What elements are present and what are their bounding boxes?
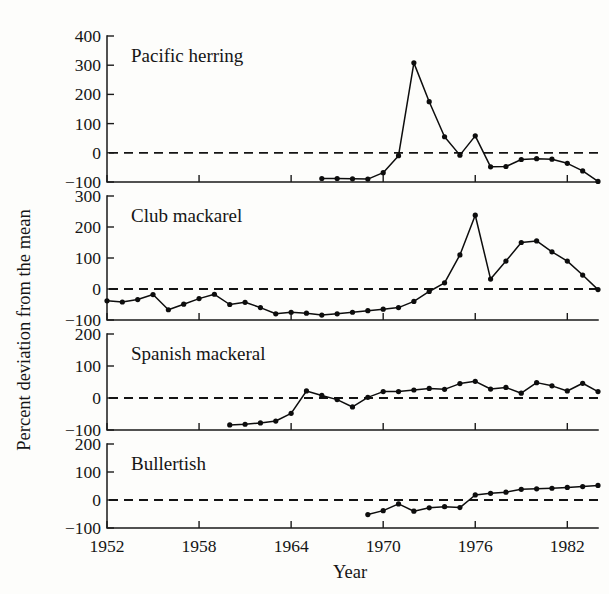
data-point xyxy=(120,299,125,304)
data-point xyxy=(488,491,493,496)
data-point xyxy=(365,395,370,400)
data-point xyxy=(473,379,478,384)
x-tick-label: 1964 xyxy=(274,536,309,556)
data-point xyxy=(365,308,370,313)
y-tick-label: 100 xyxy=(75,356,102,376)
data-point xyxy=(242,422,247,427)
data-point xyxy=(519,391,524,396)
data-point xyxy=(350,310,355,315)
panel-title: Spanish mackeral xyxy=(131,343,266,364)
data-point xyxy=(565,388,570,393)
data-point xyxy=(580,484,585,489)
data-point xyxy=(503,385,508,390)
y-tick-label: 100 xyxy=(75,248,102,268)
y-tick-label: 200 xyxy=(75,434,102,454)
data-point xyxy=(289,411,294,416)
figure-root: −1000100200300400Pacific herring−1000100… xyxy=(0,0,609,594)
data-point xyxy=(580,381,585,386)
data-point xyxy=(181,302,186,307)
panel-title: Club mackarel xyxy=(131,205,242,226)
data-point xyxy=(258,305,263,310)
data-point xyxy=(488,276,493,281)
data-point xyxy=(335,311,340,316)
y-axis-title: Percent deviation from the mean xyxy=(14,209,34,450)
data-point xyxy=(565,161,570,166)
data-point xyxy=(519,240,524,245)
data-point xyxy=(365,176,370,181)
x-tick-label: 1982 xyxy=(550,536,585,556)
data-point xyxy=(549,383,554,388)
data-point xyxy=(319,312,324,317)
y-tick-label: 400 xyxy=(75,26,102,46)
data-point xyxy=(442,504,447,509)
data-point xyxy=(381,508,386,513)
y-tick-label: 300 xyxy=(75,186,102,206)
data-point xyxy=(227,302,232,307)
data-point xyxy=(442,280,447,285)
data-point xyxy=(258,420,263,425)
data-point xyxy=(396,153,401,158)
panel-4: −1000100200Bullertish xyxy=(65,434,601,538)
y-tick-label: 0 xyxy=(92,388,101,408)
data-point xyxy=(503,164,508,169)
data-point xyxy=(580,272,585,277)
data-point xyxy=(580,168,585,173)
data-point xyxy=(273,311,278,316)
data-point xyxy=(104,298,109,303)
data-point xyxy=(335,176,340,181)
y-tick-label: 0 xyxy=(92,143,101,163)
x-axis-group: 195219581964197019761982 xyxy=(90,536,585,556)
data-point xyxy=(534,156,539,161)
data-point xyxy=(381,389,386,394)
data-point xyxy=(289,310,294,315)
data-point xyxy=(442,134,447,139)
y-tick-label: 200 xyxy=(75,217,102,237)
data-point xyxy=(595,483,600,488)
data-point xyxy=(488,164,493,169)
data-point xyxy=(227,422,232,427)
data-point xyxy=(381,170,386,175)
data-point xyxy=(473,213,478,218)
data-point xyxy=(534,380,539,385)
data-point xyxy=(411,387,416,392)
data-point xyxy=(427,386,432,391)
panel-title: Bullertish xyxy=(131,453,206,474)
data-point xyxy=(135,297,140,302)
data-point xyxy=(473,492,478,497)
y-tick-label: 0 xyxy=(92,279,101,299)
data-point xyxy=(565,259,570,264)
series-line xyxy=(107,215,598,315)
data-point xyxy=(350,176,355,181)
data-point xyxy=(319,393,324,398)
data-point xyxy=(411,60,416,65)
data-point xyxy=(457,505,462,510)
data-point xyxy=(242,300,247,305)
multi-panel-line-chart: −1000100200300400Pacific herring−1000100… xyxy=(0,0,609,594)
x-tick-label: 1958 xyxy=(182,536,217,556)
y-tick-label: 100 xyxy=(75,114,102,134)
data-point xyxy=(549,249,554,254)
panel-3: −1000100200Spanish mackeral xyxy=(65,324,601,440)
y-tick-label: 300 xyxy=(75,55,102,75)
data-point xyxy=(319,176,324,181)
data-point xyxy=(549,486,554,491)
data-point xyxy=(304,388,309,393)
panel-title: Pacific herring xyxy=(131,45,244,66)
data-point xyxy=(565,485,570,490)
data-point xyxy=(595,287,600,292)
data-point xyxy=(166,307,171,312)
y-tick-label: 200 xyxy=(75,84,102,104)
data-point xyxy=(350,404,355,409)
data-point xyxy=(457,252,462,257)
data-point xyxy=(519,157,524,162)
data-point xyxy=(150,292,155,297)
data-point xyxy=(549,157,554,162)
data-point xyxy=(473,133,478,138)
data-point xyxy=(595,179,600,184)
data-point xyxy=(457,153,462,158)
y-tick-label: 0 xyxy=(92,490,101,510)
x-tick-label: 1952 xyxy=(90,536,125,556)
data-point xyxy=(304,311,309,316)
data-point xyxy=(273,418,278,423)
data-point xyxy=(411,509,416,514)
